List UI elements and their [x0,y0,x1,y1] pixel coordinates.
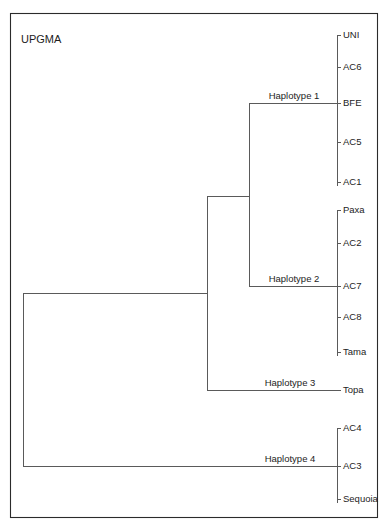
leaf-label-uni: UNI [343,29,359,40]
leaf-label-ac2: AC2 [343,237,361,248]
leaf-label-ac7: AC7 [343,280,361,291]
cluster-label-haplotype-4: Haplotype 4 [265,453,316,464]
leaf-label-tama: Tama [343,346,367,357]
leaf-label-ac4: AC4 [343,422,361,433]
upgma-tree-figure: UPGMA Haplotype 1 Haplotype 2 Haplotype … [0,0,390,531]
leaf-label-ac6: AC6 [343,61,361,72]
leaf-label-paxa: Paxa [343,204,365,215]
leaf-label-ac1: AC1 [343,176,361,187]
method-label: UPGMA [21,33,62,45]
figure-border [11,14,378,518]
cluster-label-haplotype-3: Haplotype 3 [265,377,316,388]
leaf-label-bfe: BFE [343,97,361,108]
cluster-label-haplotype-2: Haplotype 2 [269,273,320,284]
cluster-label-haplotype-1: Haplotype 1 [269,90,320,101]
dendrogram-canvas: UPGMA Haplotype 1 Haplotype 2 Haplotype … [0,0,390,531]
leaf-label-ac8: AC8 [343,311,361,322]
leaf-label-sequoia: Sequoia [343,493,379,504]
leaf-label-ac5: AC5 [343,136,361,147]
leaf-label-topa: Topa [343,384,364,395]
leaf-label-ac3: AC3 [343,460,361,471]
